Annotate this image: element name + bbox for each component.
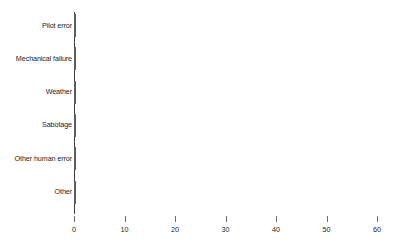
- horizontal-bar-chart: Pilot errorMechanical failureWeatherSabo…: [0, 0, 396, 245]
- bar-mechanical-failure: [74, 47, 185, 70]
- bar-sabotage: [74, 114, 119, 137]
- x-tick-label: 60: [362, 225, 392, 234]
- bar-weather: [74, 81, 135, 104]
- x-tick-mark: [74, 216, 75, 222]
- x-tick-label: 10: [110, 225, 140, 234]
- x-tick-label: 0: [59, 225, 89, 234]
- category-label: Other human error: [0, 154, 72, 163]
- bar-fill: [74, 14, 76, 37]
- x-tick-label: 20: [160, 225, 190, 234]
- category-label: Pilot error: [0, 21, 72, 30]
- x-tick-mark: [226, 216, 227, 222]
- x-tick-mark: [125, 216, 126, 222]
- x-tick-mark: [276, 216, 277, 222]
- bar-other: [74, 181, 79, 204]
- bar-fill: [74, 147, 76, 170]
- x-tick-mark: [327, 216, 328, 222]
- category-label: Weather: [0, 87, 72, 96]
- category-label: Other: [0, 187, 72, 196]
- bar-fill: [74, 81, 76, 104]
- bar-fill: [74, 47, 76, 70]
- x-tick-mark: [377, 216, 378, 222]
- bar-pilot-error: [74, 14, 327, 37]
- bar-fill: [74, 114, 76, 137]
- category-label: Sabotage: [0, 120, 72, 129]
- plot-area: Pilot errorMechanical failureWeatherSabo…: [0, 0, 396, 245]
- x-tick-label: 50: [312, 225, 342, 234]
- bar-fill: [74, 181, 76, 204]
- x-tick-label: 30: [211, 225, 241, 234]
- x-tick-label: 40: [261, 225, 291, 234]
- x-tick-mark: [175, 216, 176, 222]
- category-label: Mechanical failure: [0, 54, 72, 63]
- bar-other-human-error: [74, 147, 109, 170]
